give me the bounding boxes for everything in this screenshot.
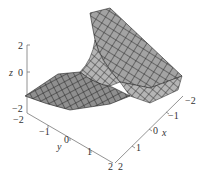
z-axis-label: z bbox=[8, 67, 13, 78]
x-axis-label: x bbox=[161, 127, 167, 138]
x-tick-neg1: −1 bbox=[168, 110, 179, 121]
z-tick-neg2: −2 bbox=[12, 103, 23, 114]
y-tick-neg1: −1 bbox=[39, 126, 50, 137]
z-tick-2: 2 bbox=[18, 40, 23, 51]
x-axis: 2 1 0 x −1 −2 bbox=[115, 95, 196, 172]
x-tick-neg2: −2 bbox=[185, 95, 196, 106]
x-tick-1: 1 bbox=[136, 142, 141, 153]
z-tick-0: 0 bbox=[18, 67, 23, 78]
x-tick-0: 0 bbox=[153, 125, 158, 136]
x-tick-2: 2 bbox=[118, 161, 123, 172]
y-tick-0: 0 bbox=[64, 134, 69, 145]
y-tick-2: 2 bbox=[108, 161, 113, 172]
y-tick-1: 1 bbox=[87, 146, 92, 157]
surface-plot: 2 0 −2 z −2 −1 0 y 1 2 2 1 0 x −1 bbox=[0, 0, 206, 176]
z-axis: 2 0 −2 z bbox=[8, 40, 30, 114]
y-axis: −2 −1 0 y 1 2 bbox=[13, 113, 113, 172]
surface-mesh bbox=[25, 8, 182, 110]
y-axis-label: y bbox=[56, 141, 62, 152]
y-tick-neg2: −2 bbox=[13, 114, 24, 125]
